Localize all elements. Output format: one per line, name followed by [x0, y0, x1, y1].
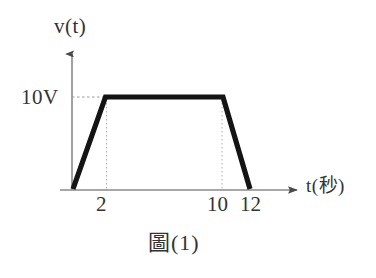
waveform-curve	[73, 97, 250, 189]
x-tick-label-10: 10	[207, 194, 228, 215]
x-axis-label: t(秒)	[306, 176, 345, 195]
x-tick-label-12: 12	[240, 194, 261, 215]
x-tick-label-2: 2	[96, 194, 107, 215]
y-value-label-10v: 10V	[21, 87, 59, 108]
figure-container: v(t) 10V t(秒) 2 10 12 圖(1)	[0, 0, 376, 278]
y-axis-label: v(t)	[54, 16, 86, 37]
figure-caption: 圖(1)	[148, 232, 200, 254]
